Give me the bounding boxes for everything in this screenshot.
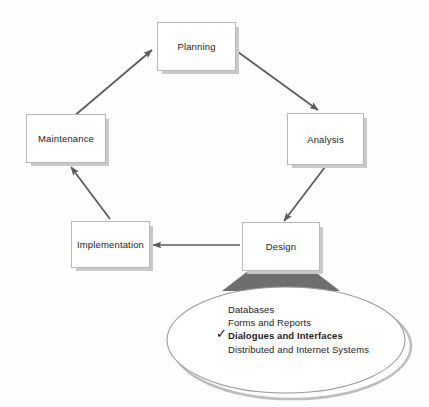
check-icon: ✓: [216, 327, 227, 340]
callout-item-databases-label: Databases: [228, 304, 274, 315]
callout-item-dialogues-and-interfaces[interactable]: ✓ Dialogues and Interfaces: [218, 329, 398, 342]
node-analysis-label: Analysis: [307, 134, 344, 145]
callout-item-distributed-and-internet-systems[interactable]: Distributed and Internet Systems: [218, 343, 398, 356]
callout-item-databases[interactable]: Databases: [218, 303, 398, 316]
callout-item-distributed-and-internet-systems-label: Distributed and Internet Systems: [228, 344, 369, 355]
node-planning[interactable]: Planning: [157, 22, 236, 71]
sdlc-diagram: Planning Analysis Design Implementation …: [0, 0, 429, 407]
arrow-planning-to-analysis: [238, 52, 318, 110]
callout-item-forms-and-reports[interactable]: Forms and Reports: [218, 316, 398, 329]
node-design-label: Design: [266, 241, 296, 252]
node-implementation[interactable]: Implementation: [71, 221, 150, 268]
callout-item-forms-and-reports-label: Forms and Reports: [228, 317, 311, 328]
node-analysis[interactable]: Analysis: [287, 113, 364, 165]
callout-item-dialogues-and-interfaces-label: Dialogues and Interfaces: [228, 330, 343, 341]
node-design[interactable]: Design: [242, 222, 320, 271]
node-planning-label: Planning: [177, 41, 215, 52]
node-maintenance-label: Maintenance: [38, 133, 94, 144]
arrow-maintenance-to-planning: [73, 50, 152, 117]
node-implementation-label: Implementation: [77, 239, 144, 250]
arrow-analysis-to-design: [284, 167, 325, 221]
arrow-implementation-to-maintenance: [71, 167, 110, 219]
callout-item-list: Databases Forms and Reports ✓ Dialogues …: [218, 303, 398, 356]
node-maintenance[interactable]: Maintenance: [26, 114, 106, 163]
